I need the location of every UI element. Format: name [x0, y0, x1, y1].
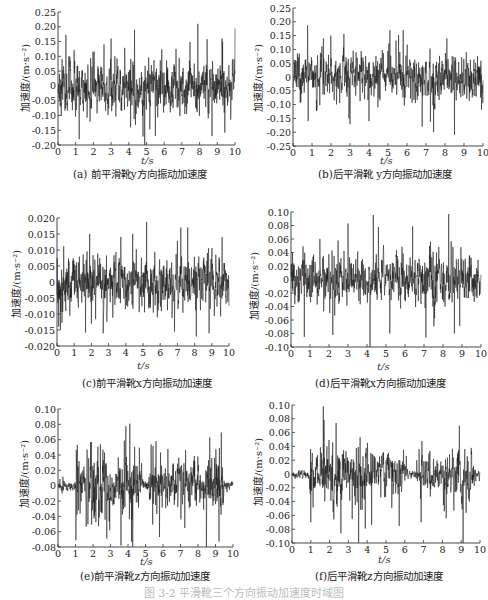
caption-f: (f)后平滑靴z方向振动加速度	[315, 568, 443, 583]
y-tick-label: 0.04	[269, 441, 290, 452]
caption-b: (b)后平滑靴 y方向振动加速度	[318, 166, 452, 181]
x-axis-label-d: t/s	[377, 361, 390, 372]
y-tick-label: -0.02	[266, 482, 290, 493]
x-tick-label: 10	[474, 544, 486, 555]
x-tick-label: 2	[327, 544, 333, 555]
y-axis-label-a: 加速度/(m·s⁻²)	[17, 44, 32, 112]
y-tick-label: -0.06	[266, 510, 290, 521]
y-tick-label: 0.06	[269, 427, 290, 438]
caption-c: (c)前平滑靴x方向振动加速度	[82, 375, 212, 390]
x-tick-label: 0	[289, 544, 295, 555]
y-tick-label: 0.02	[269, 455, 290, 466]
y-tick-label: -0.10	[266, 538, 290, 549]
y-axis-label-c: 加速度/(m·s⁻²)	[8, 250, 23, 318]
y-tick-label: 0.10	[269, 400, 290, 411]
x-axis-label-f: t/s	[378, 554, 391, 565]
y-axis-label-f: 加速度/(m·s⁻²)	[250, 438, 265, 506]
caption-a: (a) 前平滑靴y方向振动加速度	[73, 166, 207, 181]
x-tick-label: 4	[364, 544, 370, 555]
y-tick-label: 0.08	[269, 413, 290, 424]
x-tick-label: 8	[439, 544, 445, 555]
caption-d: (d)后平滑靴x方向振动加速度	[315, 375, 446, 390]
x-tick-label: 6	[402, 544, 408, 555]
y-tick-label: 0	[284, 469, 290, 480]
x-axis-label-a: t/s	[141, 155, 154, 166]
caption-e: (e)前平滑靴z方向振动加速度	[80, 568, 210, 583]
y-axis-label-d: 加速度/(m·s⁻²)	[246, 252, 261, 320]
signal-trace	[292, 406, 480, 543]
x-axis-label-c: t/s	[137, 360, 150, 371]
x-axis-label-b: t/s	[380, 155, 393, 166]
y-axis-label-e: 加速度/(m·s⁻²)	[16, 440, 31, 508]
figure-caption: 图 3-2 平滑靴三个方向振动加速度时域图	[0, 584, 488, 600]
y-tick-label: -0.04	[266, 496, 290, 507]
x-tick-label: 1	[308, 544, 314, 555]
x-tick-label: 9	[458, 544, 464, 555]
x-axis-label-e: t/s	[140, 556, 153, 567]
y-axis-label-b: 加速度/(m·s⁻²)	[250, 44, 265, 112]
y-tick-label: -0.08	[266, 524, 290, 535]
x-tick-label: 7	[421, 544, 427, 555]
x-tick-label: 3	[345, 544, 351, 555]
